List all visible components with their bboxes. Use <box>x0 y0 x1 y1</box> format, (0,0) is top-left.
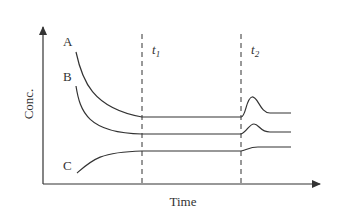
curve-b-label: B <box>63 69 72 84</box>
concentration-time-diagram: A B C t1 t2 Time Conc. <box>0 0 358 215</box>
curve-a <box>76 52 291 117</box>
t1-label: t1 <box>152 42 160 59</box>
x-axis-label: Time <box>170 194 197 209</box>
curve-c-label: C <box>63 158 72 173</box>
t1-sub: 1 <box>156 49 161 59</box>
curve-b <box>76 86 291 134</box>
curve-a-label: A <box>63 34 73 49</box>
t2-sub: 2 <box>255 49 260 59</box>
y-axis-label: Conc. <box>21 89 36 120</box>
curve-c <box>77 147 291 173</box>
t2-label: t2 <box>251 42 260 59</box>
